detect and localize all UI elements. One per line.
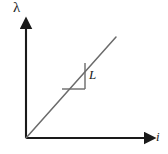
slope-label: L xyxy=(89,68,96,81)
inductance-graph-figure: λ i L xyxy=(0,0,168,154)
graph-canvas xyxy=(0,0,168,154)
y-axis-label: λ xyxy=(13,0,20,15)
x-axis-label: i xyxy=(156,130,160,143)
data-line xyxy=(26,37,116,138)
